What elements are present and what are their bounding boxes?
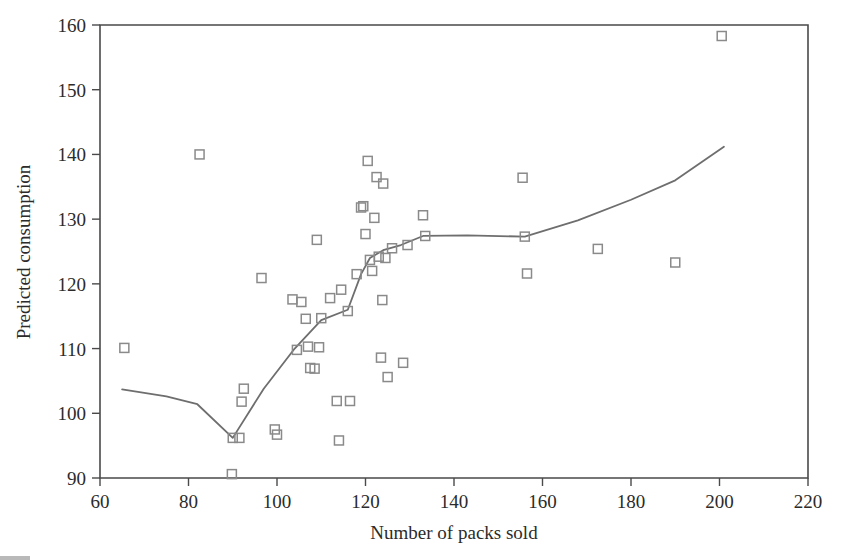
scatter-point	[326, 294, 335, 303]
x-tick-label: 140	[440, 491, 469, 512]
scatter-point	[378, 296, 387, 305]
scatter-point	[361, 230, 370, 239]
scatter-point	[518, 173, 527, 182]
x-tick-label: 200	[705, 491, 734, 512]
x-tick-label: 100	[263, 491, 292, 512]
scatter-point	[239, 384, 248, 393]
x-tick-label: 80	[179, 491, 198, 512]
y-tick-label: 140	[58, 144, 87, 165]
y-axis-title: Predicted consumption	[13, 164, 34, 339]
scatter-point	[235, 433, 244, 442]
y-tick-label: 90	[67, 468, 86, 489]
scatter-point	[301, 314, 310, 323]
scatter-point	[288, 295, 297, 304]
scatter-point	[372, 173, 381, 182]
footer-rule	[0, 556, 30, 560]
scatter-point	[717, 32, 726, 41]
y-tick-label: 150	[58, 80, 87, 101]
scatter-point	[383, 373, 392, 382]
x-tick-label: 220	[794, 491, 823, 512]
scatter-point	[332, 396, 341, 405]
scatter-point	[376, 353, 385, 362]
x-axis-title: Number of packs sold	[370, 522, 538, 543]
scatter-point	[257, 274, 266, 283]
scatter-points	[120, 32, 726, 479]
scatter-point	[593, 244, 602, 253]
plot-frame	[100, 25, 808, 478]
scatter-point	[368, 266, 377, 275]
scatter-point	[399, 358, 408, 367]
scatter-point	[195, 150, 204, 159]
scatter-point	[671, 258, 680, 267]
y-tick-label: 160	[58, 15, 87, 36]
x-tick-label: 180	[617, 491, 646, 512]
scatter-point	[237, 397, 246, 406]
x-axis-ticks: 6080100120140160180200220	[91, 478, 823, 512]
scatter-point	[315, 343, 324, 352]
scatter-point	[303, 342, 312, 351]
scatter-point	[312, 235, 321, 244]
scatter-point	[346, 396, 355, 405]
y-tick-label: 130	[58, 209, 87, 230]
y-axis-ticks: 90100110120130140150160	[58, 15, 101, 489]
scatter-point	[419, 211, 428, 220]
scatter-point	[337, 285, 346, 294]
scatter-point	[523, 269, 532, 278]
scatter-point	[120, 343, 129, 352]
scatter-point	[370, 213, 379, 222]
y-tick-label: 100	[58, 403, 87, 424]
y-tick-label: 120	[58, 274, 87, 295]
y-tick-label: 110	[58, 339, 86, 360]
x-tick-label: 160	[528, 491, 557, 512]
scatter-plot-svg: 6080100120140160180200220 90100110120130…	[0, 0, 843, 560]
scatter-point	[297, 297, 306, 306]
scatter-point	[363, 156, 372, 165]
lowess-trend-line	[122, 147, 724, 438]
x-tick-label: 60	[91, 491, 110, 512]
chart-figure: 6080100120140160180200220 90100110120130…	[0, 0, 843, 560]
scatter-point	[379, 179, 388, 188]
scatter-point	[334, 436, 343, 445]
x-tick-label: 120	[351, 491, 380, 512]
trend-line-path	[122, 147, 724, 438]
